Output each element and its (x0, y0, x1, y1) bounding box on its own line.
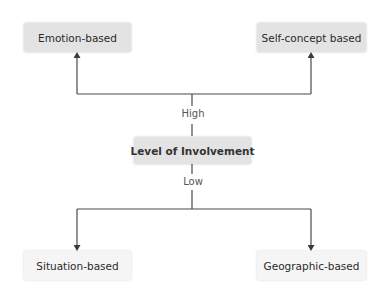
node-geographic-based: Geographic-based (257, 251, 366, 280)
node-level-of-involvement: Level of Involvement (134, 137, 251, 164)
node-label: Emotion-based (38, 32, 117, 44)
node-situation-based: Situation-based (24, 251, 131, 280)
node-emotion-based: Emotion-based (24, 23, 131, 52)
low-label: Low (183, 176, 203, 187)
node-label: Geographic-based (264, 260, 360, 272)
center-label: Level of Involvement (130, 145, 254, 157)
node-self-concept-based: Self-concept based (257, 23, 366, 52)
node-label: Situation-based (36, 260, 118, 272)
high-label: High (182, 108, 205, 119)
involvement-diagram: Emotion-based Self-concept based High Le… (0, 0, 384, 294)
node-label: Self-concept based (262, 32, 362, 44)
